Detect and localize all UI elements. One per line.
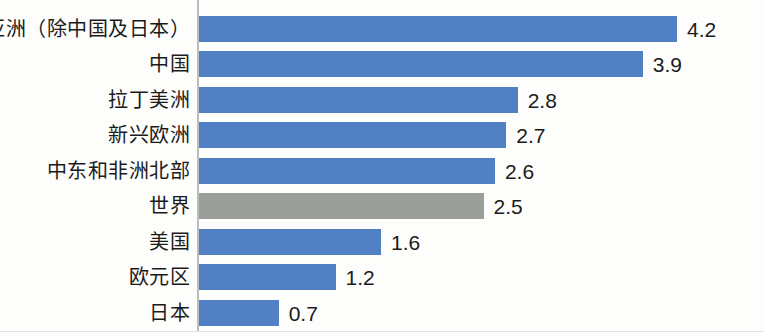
bar-chart: 亚洲（除中国及日本）4.2中国3.9拉丁美洲2.8新兴欧洲2.7中东和非洲北部2…: [0, 0, 764, 332]
category-label: 世界: [149, 196, 190, 216]
category-label: 中国: [149, 54, 190, 74]
bar: [199, 122, 506, 148]
bar: [199, 300, 279, 326]
bar-track: [199, 51, 643, 77]
bar: [199, 193, 484, 219]
bar-track: [199, 229, 381, 255]
bar-value-label: 2.6: [505, 160, 534, 181]
bar-track: [199, 87, 518, 113]
bar-value-label: 4.2: [687, 18, 716, 39]
bar-row: 欧元区1.2: [0, 260, 764, 296]
bar-row: 美国1.6: [0, 224, 764, 260]
bar: [199, 158, 495, 184]
bar-row: 中国3.9: [0, 47, 764, 83]
category-label: 中东和非洲北部: [47, 161, 191, 181]
bar: [199, 16, 677, 42]
bar-value-label: 0.7: [289, 302, 318, 323]
bar-track: [199, 264, 336, 290]
bar-track: [199, 158, 495, 184]
bar-row: 亚洲（除中国及日本）4.2: [0, 11, 764, 47]
category-label: 日本: [149, 303, 190, 323]
bar-row: 世界2.5: [0, 189, 764, 225]
bar-value-label: 1.6: [391, 231, 420, 252]
bar-value-label: 2.5: [494, 196, 523, 217]
bar: [199, 87, 518, 113]
bar: [199, 51, 643, 77]
category-label: 欧元区: [129, 267, 191, 287]
bar-value-label: 3.9: [653, 54, 682, 75]
category-label: 拉丁美洲: [108, 90, 190, 110]
bar-value-label: 2.7: [516, 125, 545, 146]
bar-track: [199, 122, 506, 148]
bar-value-label: 2.8: [528, 89, 557, 110]
bar-row: 新兴欧洲2.7: [0, 118, 764, 154]
category-label: 美国: [149, 232, 190, 252]
bar-rows-container: 亚洲（除中国及日本）4.2中国3.9拉丁美洲2.8新兴欧洲2.7中东和非洲北部2…: [0, 0, 764, 332]
bar-row: 拉丁美洲2.8: [0, 82, 764, 118]
bar-row: 中东和非洲北部2.6: [0, 153, 764, 189]
bar-value-label: 1.2: [346, 267, 375, 288]
bar: [199, 229, 381, 255]
bar-track: [199, 16, 677, 42]
bar-track: [199, 300, 279, 326]
bar-row: 日本0.7: [0, 295, 764, 331]
category-label: 新兴欧洲: [108, 125, 190, 145]
category-label: 亚洲（除中国及日本）: [0, 19, 190, 39]
bar: [199, 264, 336, 290]
bar-track: [199, 193, 484, 219]
